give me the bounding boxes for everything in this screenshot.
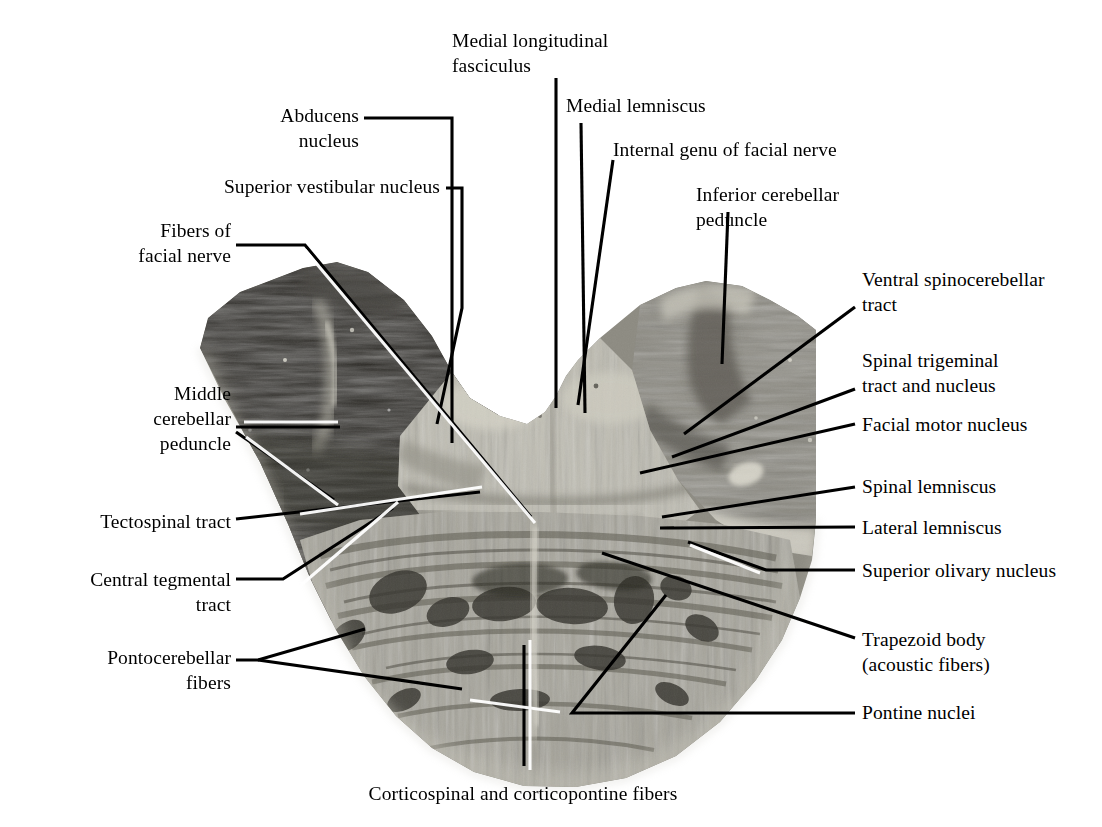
label-inferior-cerebellar-peduncle: Inferior cerebellar peduncle [696, 182, 896, 232]
label-abducens-nucleus: Abducens nucleus [249, 103, 359, 153]
label-fibers-of-facial-nerve: Fibers of facial nerve [104, 218, 231, 268]
anatomy-plate: Medial longitudinal fasciculusMedial lem… [0, 0, 1102, 827]
label-pontocerebellar-fibers: Pontocerebellar fibers [40, 645, 231, 695]
label-pontine-nuclei: Pontine nuclei [862, 700, 1102, 725]
label-ventral-spinocerebellar-tract: Ventral spinocerebellar tract [862, 267, 1102, 317]
label-corticospinal-and-corticopontine-fibers: Corticospinal and corticopontine fibers [313, 781, 733, 806]
label-middle-cerebellar-peduncle: Middle cerebellar peduncle [110, 381, 231, 456]
label-medial-lemniscus: Medial lemniscus [566, 93, 766, 118]
label-lateral-lemniscus: Lateral lemniscus [862, 515, 1102, 540]
label-medial-longitudinal-fasciculus: Medial longitudinal fasciculus [452, 28, 652, 78]
section-body [180, 250, 860, 810]
label-central-tegmental-tract: Central tegmental tract [33, 567, 231, 617]
label-trapezoid-body: Trapezoid body (acoustic fibers) [862, 627, 1102, 677]
label-superior-olivary-nucleus: Superior olivary nucleus [862, 558, 1102, 583]
label-internal-genu-of-facial-nerve: Internal genu of facial nerve [613, 137, 893, 162]
label-spinal-trigeminal-tract-and-nucleus: Spinal trigeminal tract and nucleus [862, 348, 1102, 398]
label-tectospinal-tract: Tectospinal tract [35, 509, 231, 534]
label-facial-motor-nucleus: Facial motor nucleus [862, 412, 1102, 437]
label-spinal-lemniscus: Spinal lemniscus [862, 474, 1102, 499]
label-superior-vestibular-nucleus: Superior vestibular nucleus [165, 174, 440, 199]
